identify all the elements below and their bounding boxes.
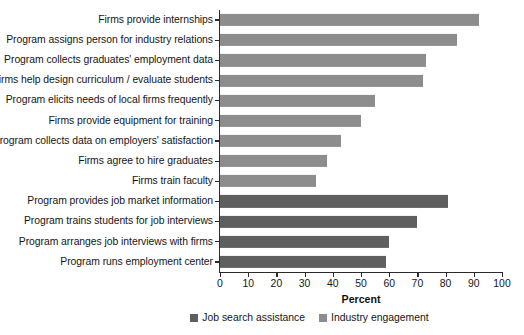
category-label: Firms help design curriculum / evaluate … <box>0 75 213 85</box>
legend-swatch-icon <box>319 314 327 322</box>
x-axis-tick-label: 80 <box>440 279 452 289</box>
category-label: Program trains students for job intervie… <box>24 216 213 226</box>
x-axis-tick <box>474 272 475 277</box>
category-label: Firms provide equipment for training <box>48 116 213 126</box>
x-axis-tick-label: 30 <box>299 279 311 289</box>
category-label: Program runs employment center <box>60 257 213 267</box>
bar <box>220 74 423 86</box>
x-axis-tick-label: 0 <box>217 279 223 289</box>
category-label: Firms provide internships <box>98 15 213 25</box>
chart-bar-row: Program collects data on employers' sati… <box>220 131 502 151</box>
bar <box>220 155 327 167</box>
chart-bar-row: Program collects graduates' employment d… <box>220 50 502 70</box>
chart-bar-row: Program arranges job interviews with fir… <box>220 232 502 252</box>
chart-bar-row: Firms provide internships <box>220 10 502 30</box>
chart-bar-row: Program assigns person for industry rela… <box>220 30 502 50</box>
x-axis-tick <box>276 272 277 277</box>
x-axis-tick-label: 90 <box>468 279 480 289</box>
chart-bar-row: Program runs employment center <box>220 252 502 272</box>
x-axis-tick <box>305 272 306 277</box>
x-axis-tick-label: 70 <box>412 279 424 289</box>
legend-swatch-icon <box>190 314 198 322</box>
x-axis-tick-label: 60 <box>383 279 395 289</box>
category-label: Program collects data on employers' sati… <box>0 136 213 146</box>
bar <box>220 14 479 26</box>
legend-label: Industry engagement <box>331 313 429 323</box>
x-axis-tick <box>502 272 503 277</box>
x-axis-title: Percent <box>0 293 524 305</box>
chart-bar-row: Firms help design curriculum / evaluate … <box>220 70 502 90</box>
chart-bar-row: Firms agree to hire graduates <box>220 151 502 171</box>
bar <box>220 135 341 147</box>
x-axis-tick-label: 50 <box>355 279 367 289</box>
bar-chart-figure: Firms provide internshipsProgram assigns… <box>0 0 524 335</box>
bar <box>220 34 457 46</box>
chart-bar-row: Program trains students for job intervie… <box>220 212 502 232</box>
category-label: Program provides job market information <box>27 196 213 206</box>
category-label: Firms agree to hire graduates <box>78 156 213 166</box>
x-axis-title-text: Percent <box>342 293 381 305</box>
category-label: Program arranges job interviews with fir… <box>19 237 213 247</box>
x-axis-tick <box>417 272 418 277</box>
plot-area: Firms provide internshipsProgram assigns… <box>220 10 502 272</box>
x-axis-tick-label: 100 <box>493 279 510 289</box>
bar <box>220 54 426 66</box>
x-axis-tick <box>389 272 390 277</box>
category-label: Program assigns person for industry rela… <box>6 35 213 45</box>
bar <box>220 175 316 187</box>
x-axis-tick-label: 10 <box>242 279 254 289</box>
category-label: Program collects graduates' employment d… <box>4 55 213 65</box>
legend-entry[interactable]: Industry engagement <box>319 313 429 323</box>
legend-entry[interactable]: Job search assistance <box>190 313 305 323</box>
bar <box>220 216 417 228</box>
x-axis-tick-label: 20 <box>271 279 283 289</box>
x-axis-tick <box>446 272 447 277</box>
chart-legend: Job search assistanceIndustry engagement <box>0 313 524 323</box>
bar <box>220 95 375 107</box>
chart-bar-row: Program provides job market information <box>220 191 502 211</box>
bar <box>220 195 448 207</box>
legend-label: Job search assistance <box>202 313 305 323</box>
category-label: Program elicits needs of local firms fre… <box>6 95 213 105</box>
x-axis-tick <box>361 272 362 277</box>
x-axis-tick <box>248 272 249 277</box>
x-axis-tick <box>220 272 221 277</box>
bar <box>220 115 361 127</box>
bar <box>220 236 389 248</box>
chart-bar-row: Firms train faculty <box>220 171 502 191</box>
chart-bar-row: Firms provide equipment for training <box>220 111 502 131</box>
chart-bar-row: Program elicits needs of local firms fre… <box>220 91 502 111</box>
x-axis-tick <box>333 272 334 277</box>
bar <box>220 256 386 268</box>
category-label: Firms train faculty <box>132 176 213 186</box>
x-axis-tick-label: 40 <box>327 279 339 289</box>
